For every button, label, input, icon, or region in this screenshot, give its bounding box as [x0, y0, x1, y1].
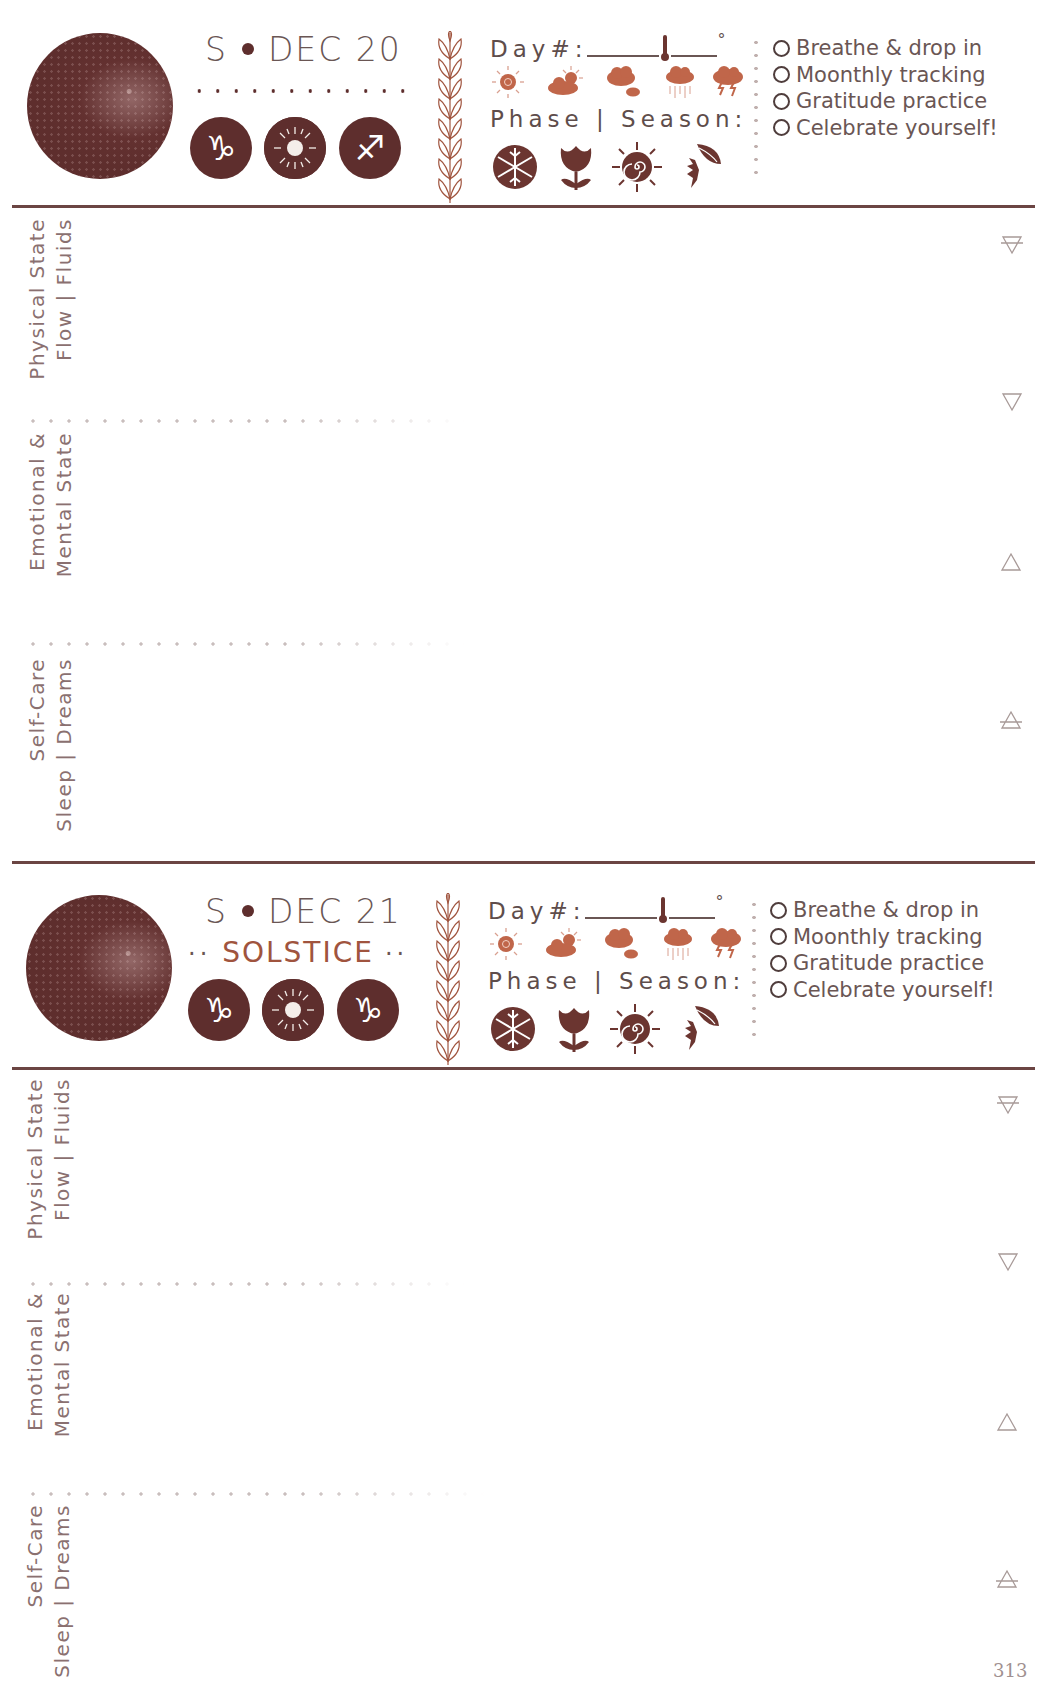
bullet-dot-icon	[242, 43, 254, 55]
solstice-subtitle: ·· SOLSTICE ··	[188, 936, 408, 969]
section-divider-dotted	[24, 419, 464, 423]
sagittarius-icon: ♐	[339, 117, 401, 179]
section-label-emotional: Emotional &Mental State	[24, 432, 78, 612]
checkbox-circle[interactable]	[773, 93, 790, 110]
earth-element-icon	[997, 1095, 1019, 1115]
month-day-label: DEC 21	[268, 892, 402, 931]
degree-symbol: °	[715, 892, 723, 911]
day-number-blank[interactable]	[587, 55, 659, 57]
thermometer-icon	[661, 897, 665, 921]
header-rule	[12, 1067, 1035, 1070]
checklist-item-gratitude[interactable]: Gratitude practice	[770, 950, 995, 977]
storm-icon[interactable]	[708, 64, 748, 100]
air-element-icon	[996, 1569, 1018, 1589]
cloudy-icon[interactable]	[603, 64, 643, 100]
day-number-label: Day#:	[488, 898, 585, 924]
section-label-emotional: Emotional &Mental State	[22, 1292, 76, 1472]
autumn-leaves-icon[interactable]	[675, 140, 725, 190]
moon-phase-icon	[26, 895, 172, 1041]
solstice-label: SOLSTICE	[222, 936, 374, 969]
checklist-item-gratitude[interactable]: Gratitude practice	[773, 88, 998, 115]
checkbox-circle[interactable]	[773, 119, 790, 136]
capricorn-icon: ♑	[337, 979, 399, 1041]
fire-element-icon	[1000, 552, 1022, 572]
spring-tulip-icon[interactable]	[549, 1004, 599, 1054]
date-heading: SDEC 20	[205, 30, 402, 69]
journal-area-emotional[interactable]	[90, 425, 970, 637]
air-element-icon	[1000, 710, 1022, 730]
phase-season-label: Phase | Season:	[488, 968, 745, 994]
winter-snowflake-icon[interactable]	[490, 142, 540, 192]
checkbox-circle[interactable]	[773, 40, 790, 57]
partly-cloudy-icon[interactable]	[545, 64, 585, 100]
temperature-blank[interactable]	[671, 55, 717, 57]
dotted-divider	[190, 89, 416, 93]
water-element-icon	[1001, 392, 1023, 412]
bullet-dot-icon	[242, 905, 254, 917]
day-entry-dec-21: SDEC 21 ·· SOLSTICE ·· ♑ ♑ Day#:° Phase …	[0, 862, 1047, 1688]
checklist-item-celebrate[interactable]: Celebrate yourself!	[770, 977, 995, 1004]
sunny-icon[interactable]	[486, 926, 526, 962]
day-number-label: Day#:	[490, 36, 587, 62]
section-divider-dotted	[24, 1492, 484, 1496]
rain-icon[interactable]	[660, 64, 700, 100]
month-day-label: DEC 20	[268, 30, 402, 69]
section-label-self-care: Self-CareSleep | Dreams	[22, 1504, 76, 1684]
autumn-leaves-icon[interactable]	[673, 1002, 723, 1052]
earth-element-icon	[1001, 235, 1023, 255]
daily-checklist: Breathe & drop in Moonthly tracking Grat…	[770, 897, 995, 1003]
moon-phase-icon	[27, 33, 173, 179]
spring-tulip-icon[interactable]	[551, 142, 601, 192]
journal-area-emotional[interactable]	[90, 1287, 970, 1487]
section-divider-dotted	[24, 1282, 464, 1286]
checklist-item-tracking[interactable]: Moonthly tracking	[773, 62, 998, 89]
fern-divider-icon	[433, 31, 467, 205]
checkbox-circle[interactable]	[770, 902, 787, 919]
storm-icon[interactable]	[706, 926, 746, 962]
checklist-item-breathe[interactable]: Breathe & drop in	[773, 35, 998, 62]
cloudy-icon[interactable]	[601, 926, 641, 962]
journal-area-physical[interactable]	[90, 210, 970, 415]
checkbox-circle[interactable]	[770, 981, 787, 998]
day-entry-dec-20: SDEC 20 ♑ ♐ Day#:° Phase | Season: Breat…	[0, 0, 1047, 862]
water-element-icon	[997, 1252, 1019, 1272]
partly-cloudy-icon[interactable]	[543, 926, 583, 962]
degree-symbol: °	[717, 30, 725, 49]
fern-divider-icon	[431, 893, 465, 1067]
sunny-icon[interactable]	[488, 64, 528, 100]
checklist-item-tracking[interactable]: Moonthly tracking	[770, 924, 995, 951]
fire-element-icon	[996, 1412, 1018, 1432]
capricorn-icon: ♑	[190, 117, 252, 179]
rain-icon[interactable]	[658, 926, 698, 962]
day-number-field[interactable]: Day#:°	[490, 30, 725, 62]
summer-sun-spiral-icon[interactable]	[612, 142, 662, 192]
day-number-field[interactable]: Day#:°	[488, 892, 723, 924]
page-number: 313	[993, 1660, 1027, 1681]
journal-area-self-care[interactable]	[90, 1498, 970, 1683]
thermometer-icon	[663, 35, 667, 59]
sun-icon	[262, 979, 324, 1041]
checkbox-circle[interactable]	[773, 66, 790, 83]
day-number-blank[interactable]	[585, 917, 657, 919]
phase-season-label: Phase | Season:	[490, 106, 747, 132]
daily-checklist: Breathe & drop in Moonthly tracking Grat…	[773, 35, 998, 141]
checklist-item-breathe[interactable]: Breathe & drop in	[770, 897, 995, 924]
section-label-physical: Physical StateFlow | Fluids	[24, 218, 78, 398]
header-rule	[12, 205, 1035, 208]
section-label-self-care: Self-CareSleep | Dreams	[24, 658, 78, 838]
journal-area-self-care[interactable]	[90, 648, 970, 856]
checkbox-circle[interactable]	[770, 928, 787, 945]
winter-snowflake-icon[interactable]	[488, 1004, 538, 1054]
weekday-label: S	[205, 892, 228, 931]
journal-area-physical[interactable]	[90, 1072, 970, 1277]
checklist-item-celebrate[interactable]: Celebrate yourself!	[773, 115, 998, 142]
checkbox-circle[interactable]	[770, 955, 787, 972]
section-divider-dotted	[24, 642, 464, 646]
section-label-physical: Physical StateFlow | Fluids	[22, 1078, 76, 1258]
vertical-dotted-divider	[752, 898, 756, 1038]
temperature-blank[interactable]	[669, 917, 715, 919]
vertical-dotted-divider	[754, 36, 758, 176]
capricorn-icon: ♑	[188, 979, 250, 1041]
date-heading: SDEC 21	[205, 892, 402, 931]
summer-sun-spiral-icon[interactable]	[610, 1004, 660, 1054]
